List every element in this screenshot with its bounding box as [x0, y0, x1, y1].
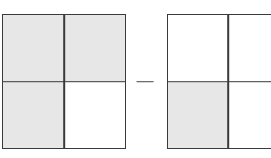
minus-sign: — — [131, 66, 159, 94]
left-square-quadrant-bottom-right — [64, 82, 125, 149]
right-square-quadrant-top-right — [228, 15, 271, 82]
right-square-quadrant-bottom-left — [168, 82, 228, 149]
fraction-subtraction-figure: — — [0, 0, 271, 158]
left-square-quadrant-top-right — [64, 15, 125, 82]
left-square-quadrant-grid — [3, 15, 125, 148]
right-square — [167, 14, 271, 149]
right-square-quadrant-bottom-right — [228, 82, 271, 149]
right-square-quadrant-grid — [168, 15, 271, 148]
right-square-quadrant-top-left — [168, 15, 228, 82]
left-square-quadrant-top-left — [3, 15, 64, 82]
left-square-quadrant-bottom-left — [3, 82, 64, 149]
left-square — [2, 14, 126, 149]
